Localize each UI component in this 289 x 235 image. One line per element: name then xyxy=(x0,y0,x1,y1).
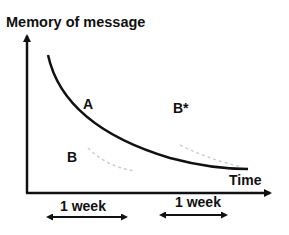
label-b: B xyxy=(67,150,77,164)
label-a: A xyxy=(83,97,93,111)
diagram-canvas xyxy=(0,0,289,235)
memory-decay-curve xyxy=(48,55,248,169)
x-axis-title: Time xyxy=(229,173,261,187)
interval-label-1: 1 week xyxy=(60,199,106,213)
label-b-star: B* xyxy=(173,101,189,115)
y-axis-title: Memory of message xyxy=(6,15,145,30)
dashed-curve-b xyxy=(88,148,135,171)
interval-label-2: 1 week xyxy=(175,195,221,209)
